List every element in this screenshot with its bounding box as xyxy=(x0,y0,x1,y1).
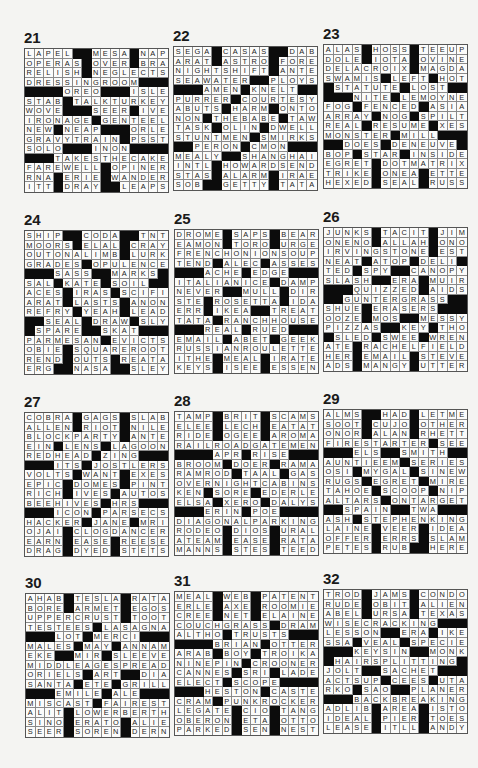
black-square xyxy=(92,269,102,279)
letter-cell: L xyxy=(120,260,130,270)
letter-cell: G xyxy=(270,268,280,278)
letter-cell: A xyxy=(289,354,299,364)
letter-cell: S xyxy=(372,448,382,458)
letter-cell: P xyxy=(54,231,64,241)
letter-cell: S xyxy=(194,344,204,354)
letter-cell: H xyxy=(54,451,64,461)
letter-cell: M xyxy=(185,335,195,345)
letter-cell: N xyxy=(139,163,149,173)
black-square xyxy=(130,518,140,528)
letter-cell: E xyxy=(101,537,111,547)
letter-cell: T xyxy=(429,159,439,169)
letter-cell: O xyxy=(149,442,159,452)
letter-cell: Y xyxy=(212,152,222,162)
letter-cell: A xyxy=(381,439,391,449)
letter-cell: B xyxy=(241,114,251,124)
letter-cell: E xyxy=(185,592,195,602)
letter-cell: O xyxy=(334,102,344,112)
letter-cell: B xyxy=(362,704,372,714)
letter-cell: R xyxy=(73,182,83,192)
letter-cell: M xyxy=(289,441,299,451)
black-square xyxy=(120,470,130,480)
puzzle-number: 30 xyxy=(25,575,42,590)
letter-cell: T xyxy=(250,180,260,190)
letter-cell: O xyxy=(251,526,261,536)
letter-cell: A xyxy=(159,670,169,680)
letter-cell: E xyxy=(54,106,64,116)
letter-cell: N xyxy=(73,364,83,374)
black-square xyxy=(35,508,45,518)
letter-cell: P xyxy=(324,323,334,333)
letter-cell: E xyxy=(175,602,185,612)
letter-cell: A xyxy=(82,182,92,192)
letter-cell: S xyxy=(448,314,458,324)
letter-cell: O xyxy=(232,649,242,659)
letter-cell: L xyxy=(185,630,195,640)
letter-cell: S xyxy=(139,135,149,145)
letter-cell: S xyxy=(73,345,83,355)
letter-cell: T xyxy=(289,422,299,432)
black-square xyxy=(251,306,261,316)
letter-cell: A xyxy=(82,97,92,107)
letter-cell: G xyxy=(280,335,290,345)
letter-cell: D xyxy=(438,524,448,534)
letter-cell: D xyxy=(54,260,64,270)
letter-cell: D xyxy=(158,307,168,317)
letter-cell: T xyxy=(35,97,45,107)
letter-cell: C xyxy=(250,142,260,152)
letter-cell: D xyxy=(353,590,363,600)
letter-cell: C xyxy=(25,413,35,423)
letter-cell: A xyxy=(185,316,195,326)
letter-cell: L xyxy=(64,661,74,671)
letter-cell: E xyxy=(175,678,185,688)
letter-cell: L xyxy=(343,55,353,65)
black-square xyxy=(175,325,185,335)
black-square xyxy=(194,450,204,460)
letter-cell: I xyxy=(232,640,242,650)
letter-cell: A xyxy=(298,152,308,162)
letter-cell: Y xyxy=(63,135,73,145)
letter-cell: T xyxy=(353,257,363,267)
letter-cell: M xyxy=(93,632,103,642)
letter-cell: A xyxy=(194,517,204,527)
letter-cell: E xyxy=(457,55,467,65)
letter-cell: P xyxy=(130,135,140,145)
black-square xyxy=(63,355,73,365)
black-square xyxy=(185,640,195,650)
letter-cell: O xyxy=(223,488,233,498)
black-square xyxy=(308,450,318,460)
letter-cell: R xyxy=(185,602,195,612)
letter-cell: O xyxy=(140,613,150,623)
letter-cell: N xyxy=(92,336,102,346)
puzzle-number: 27 xyxy=(24,394,41,409)
letter-cell: G xyxy=(400,295,410,305)
letter-cell: N xyxy=(204,668,214,678)
letter-cell: I xyxy=(158,288,168,298)
letter-cell: M xyxy=(54,336,64,346)
letter-cell: P xyxy=(251,507,261,517)
letter-cell: N xyxy=(213,479,223,489)
letter-cell: M xyxy=(308,621,318,631)
letter-cell: R xyxy=(308,640,318,650)
black-square xyxy=(222,152,232,162)
letter-cell: A xyxy=(391,410,401,420)
black-square xyxy=(74,680,84,690)
letter-cell: R xyxy=(175,431,185,441)
black-square xyxy=(45,632,55,642)
letter-cell: S xyxy=(334,638,344,648)
letter-cell: T xyxy=(242,469,252,479)
letter-cell: R xyxy=(372,64,382,74)
letter-cell: S xyxy=(213,488,223,498)
letter-cell: V xyxy=(429,55,439,65)
letter-cell: S xyxy=(334,467,344,477)
letter-cell: T xyxy=(288,114,298,124)
letter-cell: A xyxy=(353,64,363,74)
letter-cell: O xyxy=(429,590,439,600)
letter-cell: E xyxy=(308,344,318,354)
letter-cell: D xyxy=(400,410,410,420)
letter-cell: E xyxy=(391,276,401,286)
crossword-grid: SEGACASASDABARATASTROFORENIGHTSHIFTANTES… xyxy=(173,46,318,191)
letter-cell: C xyxy=(130,154,140,164)
letter-cell: A xyxy=(232,316,242,326)
letter-cell: T xyxy=(111,470,121,480)
